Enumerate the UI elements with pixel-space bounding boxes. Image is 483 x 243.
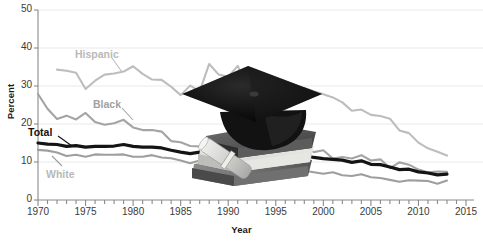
x-tick-label: 2015 xyxy=(446,206,483,217)
y-tick-label: 50 xyxy=(6,3,32,14)
y-tick-label: 0 xyxy=(6,193,32,204)
x-axis-title: Year xyxy=(0,224,483,235)
y-tick-label: 10 xyxy=(6,155,32,166)
x-tick-label: 1990 xyxy=(208,206,248,217)
x-tick-label: 2010 xyxy=(398,206,438,217)
x-tick-label: 1975 xyxy=(66,206,106,217)
y-tick-label: 40 xyxy=(6,41,32,52)
series-label-total: Total xyxy=(28,126,52,138)
series-label-black: Black xyxy=(93,98,121,110)
x-tick-label: 1985 xyxy=(161,206,201,217)
label-leader-lines xyxy=(52,58,133,166)
series-label-hispanic: Hispanic xyxy=(75,48,119,60)
x-tick-label: 2005 xyxy=(351,206,391,217)
y-tick-label: 30 xyxy=(6,79,32,90)
x-tick-label: 1970 xyxy=(18,206,58,217)
series-label-white: White xyxy=(46,168,75,180)
x-tick-label: 1980 xyxy=(113,206,153,217)
x-tick-label: 2000 xyxy=(303,206,343,217)
x-tick-label: 1995 xyxy=(256,206,296,217)
chart-container: Percent Year 01020304050 197019751980198… xyxy=(0,0,483,243)
